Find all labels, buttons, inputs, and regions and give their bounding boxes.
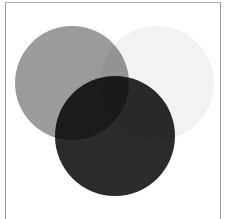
venn-diagram: [0, 0, 226, 219]
circle-bottom-dark: [55, 76, 175, 196]
venn-diagram-canvas: [0, 0, 226, 219]
